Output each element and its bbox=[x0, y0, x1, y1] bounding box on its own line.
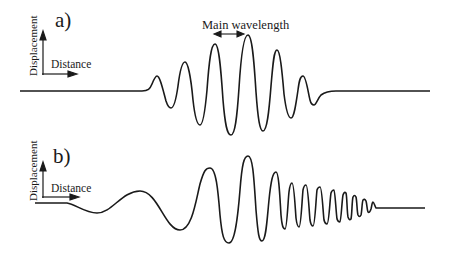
panel-a-xlabel: Distance bbox=[51, 59, 91, 71]
wave-a-line bbox=[20, 35, 430, 135]
wave-b-line bbox=[35, 156, 425, 243]
panel-a-ylabel: Displacement bbox=[28, 16, 39, 76]
panel-b-ylabel: Displacement bbox=[28, 141, 39, 201]
main-wavelength-label: Main wavelength bbox=[202, 19, 289, 32]
panel-b-xlabel: Distance bbox=[51, 183, 91, 195]
figure-canvas bbox=[0, 0, 450, 263]
panel-b-label: b) bbox=[53, 146, 71, 167]
panel-a-label: a) bbox=[55, 10, 71, 31]
